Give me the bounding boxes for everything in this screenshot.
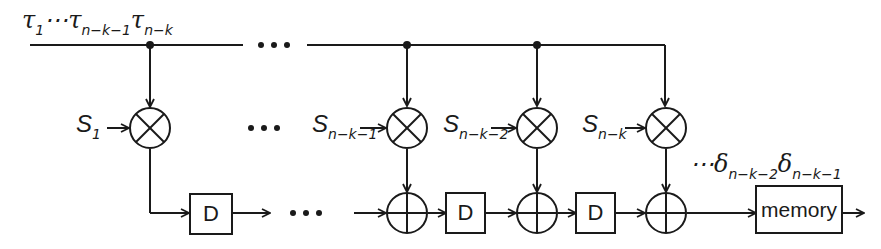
- adder-3: [646, 193, 686, 233]
- ellipsis-bottom: [290, 210, 322, 216]
- shift-register-diagram: τ1⋯τn−k−1τn−k S1 Sn−k−1 Sn−k−2 Sn−k D D …: [0, 0, 881, 249]
- input-bus: [30, 41, 665, 107]
- delay-label-1: D: [190, 194, 232, 234]
- delay-label-3: D: [576, 193, 615, 233]
- memory-label: memory: [756, 186, 842, 233]
- output-sequence-label: ⋯δn−k−2δn−k−1: [690, 152, 842, 176]
- delay-label-2: D: [446, 193, 485, 233]
- multiplier-4: [646, 108, 686, 148]
- coefficient-label-1: S1: [76, 112, 101, 136]
- multiplier-to-adder-wires: [407, 149, 666, 192]
- ellipsis-middle: [248, 125, 280, 131]
- adder-2: [517, 193, 557, 233]
- multiplier-3: [517, 108, 557, 148]
- input-sequence-label: τ1⋯τn−k−1τn−k: [22, 8, 173, 32]
- ellipsis-top: [258, 42, 290, 48]
- multiplier-2: [387, 108, 427, 148]
- coefficient-label-4: Sn−k: [582, 112, 627, 136]
- diagram-wires: [0, 0, 881, 249]
- multiplier-1: [130, 108, 170, 148]
- adder-1: [387, 193, 427, 233]
- coefficient-label-3: Sn−k−2: [443, 112, 508, 136]
- coefficient-label-2: Sn−k−1: [312, 112, 377, 136]
